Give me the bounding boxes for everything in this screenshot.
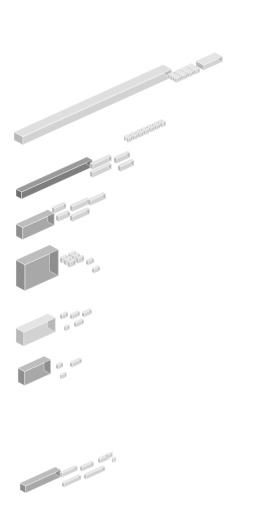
small-box-block	[18, 356, 82, 385]
slab-groove	[15, 66, 164, 133]
base-bar	[20, 452, 116, 493]
slab-groove	[18, 67, 167, 134]
box-block	[16, 309, 92, 347]
slab-groove	[17, 66, 166, 133]
slab-front-face	[23, 70, 172, 145]
long-slab	[14, 53, 222, 145]
cube-side-face	[16, 260, 25, 291]
dark-bar-top-face	[16, 157, 92, 192]
diagram-canvas	[0, 0, 262, 512]
cube-block	[16, 245, 100, 291]
isometric-block-diagram	[0, 0, 262, 512]
slab-groove	[19, 68, 168, 135]
tray-block	[16, 192, 106, 239]
dark-bar-front-face	[22, 160, 93, 199]
